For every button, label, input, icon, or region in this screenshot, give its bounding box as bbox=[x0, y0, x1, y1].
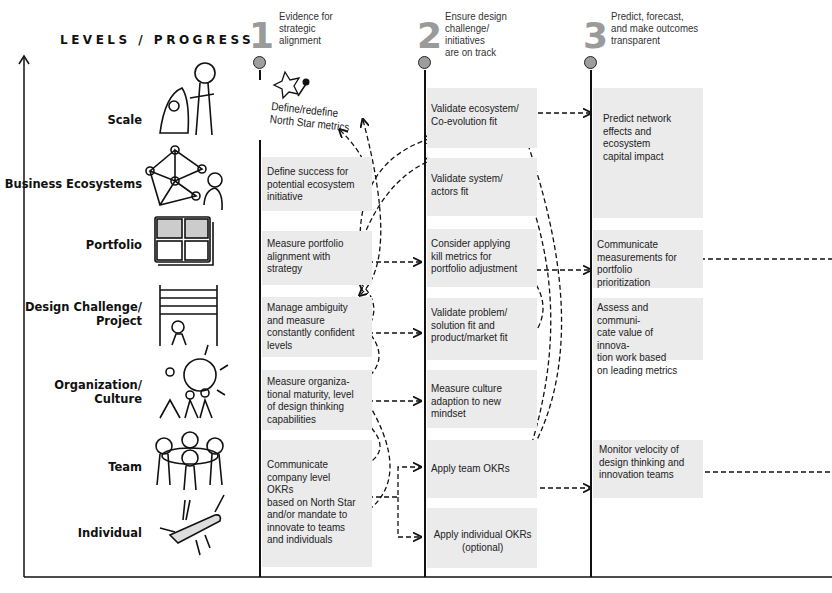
phase-3-line bbox=[590, 70, 592, 577]
diagram-lines bbox=[0, 0, 832, 593]
c1-box-ecosystem: Define success for potential ecosystem i… bbox=[262, 157, 372, 211]
c1-box-portfolio: Measure portfolio alignment with strateg… bbox=[262, 231, 372, 285]
level-individual: Individual bbox=[78, 526, 142, 540]
phase-2-title: Ensure design challenge/ initiatives are… bbox=[445, 10, 507, 58]
phase-1-pin bbox=[253, 56, 266, 69]
c2-box-individual: Apply individual OKRs (optional) bbox=[427, 508, 537, 568]
c1-box-project: Manage ambiguity and measure constantly … bbox=[262, 297, 372, 357]
level-organization: Organization/ Culture bbox=[54, 378, 142, 406]
phase-1-number: 1 bbox=[249, 18, 274, 54]
phase-2-number: 2 bbox=[417, 18, 442, 54]
c2-box-organization: Measure culture adaption to new mindset bbox=[427, 370, 537, 428]
c3-box-project: Assess and communi- cate value of innova… bbox=[593, 298, 703, 360]
c2-box-ecosystem: Validate system/ actors fit bbox=[427, 158, 537, 216]
c1-box-organization: Measure organiza- tional maturity, level… bbox=[262, 370, 372, 430]
phase-1-title: Evidence for strategic alignment bbox=[279, 10, 333, 46]
level-portfolio: Portfolio bbox=[86, 238, 142, 252]
c2-box-portfolio: Consider applying kill metrics for portf… bbox=[427, 229, 537, 287]
phase-1-pin-stem bbox=[259, 70, 261, 80]
c3-box-team: Monitor velocity of design thinking and … bbox=[593, 440, 703, 498]
level-scale: Scale bbox=[107, 113, 142, 127]
phase-3-number: 3 bbox=[583, 18, 608, 54]
phase-2-pin bbox=[418, 56, 431, 69]
c3-box-portfolio: Communicate measurements for portfolio p… bbox=[593, 230, 703, 288]
phase-1-line bbox=[259, 140, 261, 577]
c2-box-project: Validate problem/ solution fit and produ… bbox=[427, 298, 537, 360]
level-team: Team bbox=[108, 460, 142, 474]
phase-3-title: Predict, forecast, and make outcomes tra… bbox=[611, 10, 698, 46]
level-business-ecosystems: Business Ecosystems bbox=[5, 177, 142, 191]
c1-box-team-individual: Communicate company level OKRs based on … bbox=[262, 440, 372, 567]
c2-box-scale: Validate ecosystem/ Co-evolution fit bbox=[427, 88, 537, 148]
phase-2-line bbox=[424, 70, 426, 577]
phase-3-pin bbox=[584, 56, 597, 69]
level-design-challenge: Design Challenge/ Project bbox=[25, 300, 142, 328]
c3-box-ecosystem: Predict network effects and ecosystem ca… bbox=[593, 88, 703, 218]
c2-box-team: Apply team OKRs bbox=[427, 440, 537, 498]
